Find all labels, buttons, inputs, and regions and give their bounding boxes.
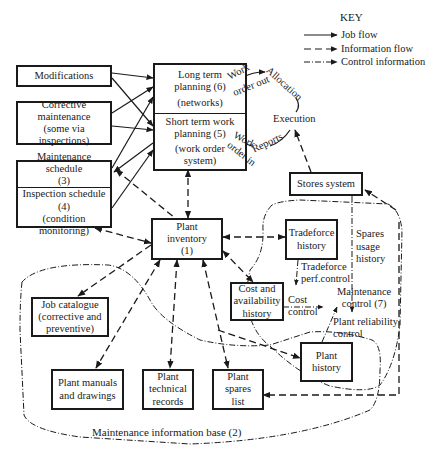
plant-technical-records-box: Plant technical records	[142, 369, 194, 410]
job-catalogue-line-2: (corrective and	[38, 311, 101, 323]
tradeforce-history-line-1: Tradeforce	[289, 227, 335, 239]
key-information-flow: Information flow	[341, 43, 413, 54]
key-job-flow: Job flow	[341, 29, 377, 40]
spares-usage-history-label: Spares usage history	[356, 228, 385, 266]
tradeforce-perf-line-2: perf.control	[301, 273, 350, 285]
plant-history-line-2: history	[312, 362, 341, 374]
cost-control-line-2: control	[288, 306, 318, 318]
maintenance-control-line-2: control (7)	[337, 298, 391, 310]
spares-usage-line-2: usage	[356, 241, 385, 254]
long-term-line-2: planning (6)	[174, 81, 226, 93]
plant-manuals-line-1: Plant manuals	[58, 377, 117, 389]
cost-availability-box: Cost and availability history	[230, 282, 284, 321]
corrective-line-2: maintenance	[37, 111, 90, 123]
maintenance-schedule-section: Maintenance schedule (3)	[18, 151, 110, 187]
plant-spares-list-box: Plant spares list	[212, 369, 264, 410]
tradeforce-history-box: Tradeforce history	[285, 219, 338, 260]
execution-label: Execution	[273, 113, 316, 125]
key-title: KEY	[340, 11, 363, 23]
plant-inventory-line-3: (1)	[181, 245, 193, 257]
inspection-schedule-line-2: (4)	[58, 201, 70, 213]
job-catalogue-line-1: Job catalogue	[41, 299, 98, 311]
short-term-line-2: planning (5)	[174, 128, 226, 140]
spares-usage-line-3: history	[356, 253, 385, 266]
modifications-label: Modifications	[35, 70, 94, 82]
plant-history-line-1: Plant	[316, 350, 338, 362]
tradeforce-perf-line-1: Tradeforce	[301, 261, 350, 273]
maintenance-control-line-1: Maintenance	[337, 286, 391, 298]
plant-technical-line-1: Plant	[157, 371, 179, 383]
key-control-information: Control information	[341, 56, 425, 67]
plant-manuals-box: Plant manuals and drawings	[51, 369, 124, 410]
plant-spares-line-1: Plant	[227, 371, 249, 383]
long-term-line-3: (networks)	[177, 97, 223, 109]
plant-technical-line-3: records	[153, 396, 184, 408]
cost-availability-line-2: availability	[233, 295, 280, 307]
plant-spares-line-3: list	[232, 396, 245, 408]
modifications-box: Modifications	[16, 65, 112, 87]
corrective-line-3: (some via inspections)	[18, 123, 110, 147]
short-term-line-4: system)	[184, 155, 217, 167]
cost-availability-line-3: history	[242, 308, 271, 320]
short-term-line-3: (work order	[175, 143, 225, 155]
cost-control-label: Cost control	[288, 294, 318, 317]
plant-inventory-line-1: Plant	[176, 221, 198, 233]
cost-control-line-1: Cost	[288, 294, 318, 306]
short-term-line-1: Short term work	[166, 116, 235, 128]
job-catalogue-box: Job catalogue (corrective and preventive…	[31, 297, 109, 337]
plant-technical-line-2: technical	[149, 383, 187, 395]
schedule-box: Maintenance schedule (3) Inspection sche…	[16, 160, 112, 228]
inspection-schedule-line-1: Inspection schedule	[22, 188, 105, 200]
plant-reliability-control-label: Plant reliability control	[333, 316, 398, 339]
plant-reliability-line-1: Plant reliability	[333, 316, 398, 328]
tradeforce-perf-control-label: Tradeforce perf.control	[301, 261, 350, 284]
corrective-line-1: Corrective	[42, 99, 86, 111]
corrective-maintenance-box: Corrective maintenance (some via inspect…	[16, 101, 112, 145]
cost-availability-line-1: Cost and	[238, 283, 275, 295]
maintenance-control-label: Maintenance control (7)	[337, 286, 391, 309]
inspection-schedule-line-3: (condition monitoring)	[18, 213, 110, 237]
plant-history-box: Plant history	[300, 342, 353, 382]
inspection-schedule-section: Inspection schedule (4) (condition monit…	[18, 187, 110, 236]
stores-system-box: Stores system	[289, 172, 363, 196]
plant-spares-line-2: spares	[225, 383, 251, 395]
plant-manuals-line-2: and drawings	[59, 390, 115, 402]
job-catalogue-line-3: preventive)	[46, 323, 94, 335]
stores-system-label: Stores system	[297, 178, 355, 190]
spares-usage-line-1: Spares	[356, 228, 385, 241]
tradeforce-history-line-2: history	[297, 240, 326, 252]
maintenance-schedule-line-1: Maintenance schedule	[18, 151, 110, 175]
maintenance-information-base-label: Maintenance information base (2)	[92, 426, 241, 438]
long-term-line-1: Long term	[178, 69, 222, 81]
plant-inventory-box: Plant inventory (1)	[151, 218, 223, 260]
maintenance-schedule-line-2: (3)	[58, 175, 70, 187]
plant-inventory-line-2: inventory	[167, 233, 207, 245]
plant-reliability-line-2: control	[333, 328, 398, 340]
